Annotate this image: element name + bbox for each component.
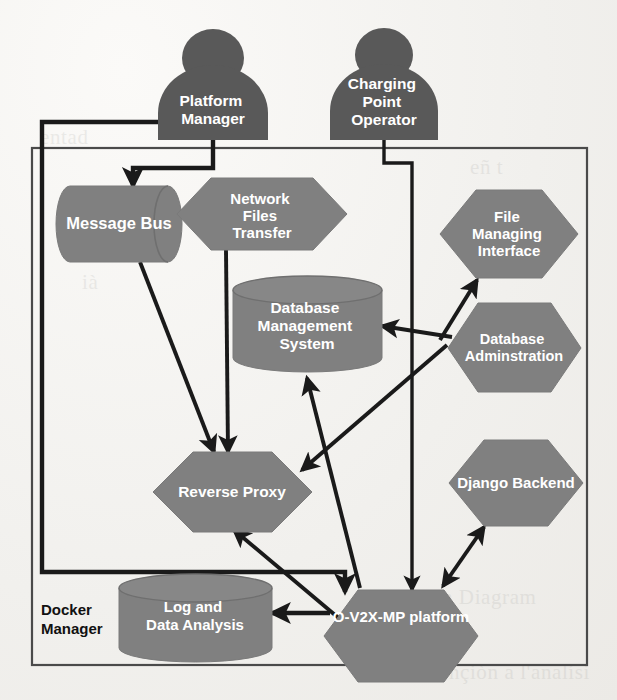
o-v2x-mp-platform-hexagon	[324, 590, 478, 682]
node-log-and-data-analysis[interactable]: Log and Data Analysis	[119, 574, 272, 662]
node-reverse-proxy[interactable]: Reverse Proxy	[153, 452, 312, 532]
node-o-v2x-mp-platform-label: O-V2X-MP platform	[333, 608, 469, 625]
docker-manager-label: Docker Manager	[41, 601, 103, 637]
node-reverse-proxy-label: Reverse Proxy	[178, 483, 286, 500]
node-django-backend-label: Django Backend	[457, 474, 575, 491]
connector-message-bus-to-reverse-proxy	[140, 262, 214, 452]
node-database-administration[interactable]: Database Adminstration	[448, 303, 581, 392]
architecture-diagram-canvas: Platform Manager Charging Point Operator…	[0, 0, 617, 700]
node-o-v2x-mp-platform[interactable]: O-V2X-MP platform	[324, 590, 478, 682]
node-django-backend[interactable]: Django Backend	[449, 440, 583, 526]
node-database-management-system[interactable]: Database Management System	[233, 276, 382, 372]
node-message-bus-label: Message Bus	[66, 214, 171, 232]
node-file-managing-interface[interactable]: File Managing Interface	[440, 190, 578, 278]
connector-o-v2x-mp-platform-to-database-management-system	[307, 378, 360, 588]
actor-platform-manager-label: Platform Manager	[179, 92, 246, 127]
connector-o-v2x-mp-platform-to-django-backend	[443, 527, 484, 586]
node-network-files-transfer[interactable]: Network Files Transfer	[177, 178, 347, 250]
node-message-bus[interactable]: Message Bus	[56, 186, 182, 262]
diagram-stage: Platform Manager Charging Point Operator…	[0, 0, 617, 700]
actor-platform-manager[interactable]: Platform Manager	[158, 29, 268, 140]
connector-database-administration-to-database-management-system	[382, 326, 452, 337]
actor-charging-point-operator[interactable]: Charging Point Operator	[330, 28, 438, 140]
connector-charging-point-operator-to-o-v2x-mp-platform	[384, 140, 412, 590]
connector-network-files-transfer-to-reverse-proxy	[226, 250, 228, 452]
